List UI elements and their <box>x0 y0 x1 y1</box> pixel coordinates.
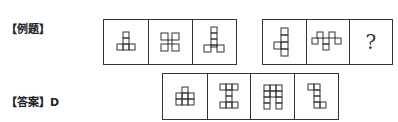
answer-label: 【答案】D <box>6 93 59 109</box>
cross-shape-icon <box>272 27 296 57</box>
step-shape-icon <box>305 82 329 112</box>
figure-cell <box>263 20 306 64</box>
tall-tower-y-icon <box>202 26 226 58</box>
options-group <box>162 73 339 120</box>
figure-cell <box>306 20 349 64</box>
cutoff-text <box>0 0 92 5</box>
option-d[interactable] <box>294 74 338 119</box>
t-shape-tower-icon <box>115 31 137 53</box>
example-label: 【例题】 <box>6 20 50 36</box>
stacked-grid-icon <box>173 85 197 109</box>
figure-cell: ? <box>349 20 392 64</box>
i-beam-icon <box>217 82 241 112</box>
arch-grid-icon <box>261 83 285 111</box>
example-group-1 <box>103 19 237 65</box>
zigzag-squares-icon <box>311 30 345 54</box>
figure-cell <box>192 20 236 64</box>
figure-cell <box>148 20 192 64</box>
figure-cell <box>104 20 148 64</box>
four-corner-squares-icon <box>159 31 181 53</box>
option-a[interactable] <box>163 74 207 119</box>
example-group-2: ? <box>262 19 393 65</box>
option-b[interactable] <box>207 74 251 119</box>
question-mark: ? <box>366 30 377 54</box>
option-c[interactable] <box>250 74 294 119</box>
